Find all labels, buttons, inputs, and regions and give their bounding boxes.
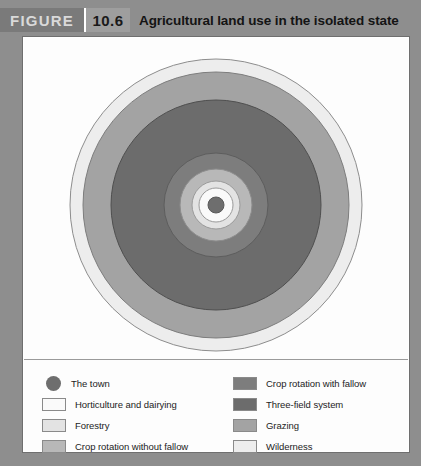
town-dot-icon (46, 376, 61, 391)
legend-column-left: The town Horticulture and dairying Fores… (24, 374, 217, 451)
legend-column-right: Crop rotation with fallow Three-field sy… (217, 374, 408, 451)
figure-legend: The town Horticulture and dairying Fores… (24, 360, 408, 451)
horticulture-swatch-icon (42, 398, 66, 411)
legend-label-forestry: Forestry (66, 420, 109, 431)
figure-panel-inner: The town Horticulture and dairying Fores… (24, 38, 408, 451)
legend-label-crop-rotation-with-fallow: Crop rotation with fallow (257, 378, 366, 389)
figure-page: FIGURE 10.6 Agricultural land use in the… (0, 0, 421, 466)
crop-rotation-no-fallow-swatch-icon (42, 440, 66, 453)
three-field-swatch-icon (233, 398, 257, 411)
figure-header: FIGURE 10.6 Agricultural land use in the… (0, 8, 399, 32)
zone-the-town (208, 197, 224, 213)
diagram-area (24, 38, 408, 359)
legend-item-wilderness: Wilderness (233, 437, 408, 456)
figure-tab-label: FIGURE (0, 8, 86, 32)
legend-item-horticulture-and-dairying: Horticulture and dairying (42, 395, 217, 414)
legend-item-grazing: Grazing (233, 416, 408, 435)
figure-number-label: 10.6 (86, 8, 130, 32)
legend-label-horticulture-and-dairying: Horticulture and dairying (66, 399, 177, 410)
figure-panel: The town Horticulture and dairying Fores… (22, 36, 410, 453)
legend-item-forestry: Forestry (42, 416, 217, 435)
wilderness-swatch-icon (233, 440, 257, 453)
legend-item-the-town: The town (42, 374, 217, 393)
crop-rotation-fallow-swatch-icon (233, 377, 257, 390)
concentric-rings-diagram (66, 55, 366, 355)
legend-label-crop-rotation-without-fallow: Crop rotation without fallow (66, 441, 188, 452)
ring-group (70, 59, 362, 351)
legend-label-wilderness: Wilderness (257, 441, 313, 452)
legend-item-crop-rotation-without-fallow: Crop rotation without fallow (42, 437, 217, 456)
grazing-swatch-icon (233, 419, 257, 432)
forestry-swatch-icon (42, 419, 66, 432)
legend-label-three-field-system: Three-field system (257, 399, 343, 410)
legend-label-grazing: Grazing (257, 420, 299, 431)
legend-item-three-field-system: Three-field system (233, 395, 408, 414)
legend-item-crop-rotation-with-fallow: Crop rotation with fallow (233, 374, 408, 393)
legend-label-the-town: The town (66, 378, 110, 389)
figure-title: Agricultural land use in the isolated st… (130, 8, 399, 32)
